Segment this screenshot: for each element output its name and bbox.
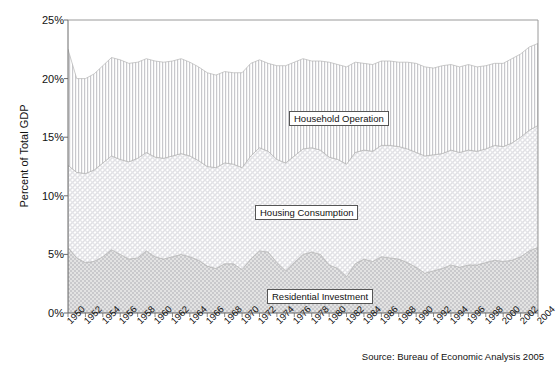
band-label-housing-consumption: Housing Consumption — [255, 205, 358, 220]
band-label-household-operation: Household Operation — [289, 111, 389, 126]
source-note: Source: Bureau of Economic Analysis 2005 — [362, 351, 544, 362]
band-label-residential-investment: Residential Investment — [267, 289, 373, 304]
